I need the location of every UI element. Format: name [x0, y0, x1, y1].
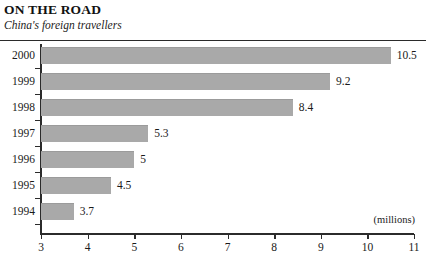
x-axis-tick	[181, 234, 182, 239]
bar-category-label: 1995	[0, 178, 35, 193]
bar-category-label: 1997	[0, 126, 35, 141]
x-axis-tick	[228, 234, 229, 239]
x-axis-tick	[88, 234, 89, 239]
x-axis-tick	[41, 234, 42, 239]
bar-value-label: 5	[140, 152, 146, 167]
bar-value-label: 8.4	[299, 100, 313, 115]
bar-category-label: 1994	[0, 204, 35, 219]
x-axis-tick	[367, 234, 368, 239]
bar-value-label: 5.3	[154, 126, 168, 141]
x-axis-tick	[134, 234, 135, 239]
bar	[41, 47, 391, 64]
bar	[41, 73, 330, 90]
y-axis-tick	[35, 120, 41, 121]
x-axis-tick-label: 8	[262, 240, 286, 255]
y-axis-tick	[35, 146, 41, 147]
y-axis-tick	[35, 198, 41, 199]
bar-category-label: 1998	[0, 100, 35, 115]
bar-row: 19988.4	[0, 97, 426, 123]
y-axis-tick	[35, 68, 41, 69]
bar-row: 19965	[0, 149, 426, 175]
x-axis-tick-label: 3	[29, 240, 53, 255]
bar-row: 19999.2	[0, 71, 426, 97]
unit-label: (millions)	[355, 213, 415, 226]
bar	[41, 177, 111, 194]
x-axis-tick-label: 11	[402, 240, 426, 255]
y-axis-tick	[35, 224, 41, 225]
x-axis-tick	[321, 234, 322, 239]
bar-value-label: 4.5	[117, 178, 131, 193]
bar-value-label: 9.2	[336, 74, 350, 89]
bar-value-label: 10.5	[397, 48, 417, 63]
x-axis-tick	[414, 234, 415, 239]
bar-value-label: 3.7	[80, 204, 94, 219]
x-axis-tick-label: 6	[169, 240, 193, 255]
bar-category-label: 2000	[0, 48, 35, 63]
y-axis-tick	[35, 172, 41, 173]
bar-row: 200010.5	[0, 45, 426, 71]
y-axis-tick	[35, 94, 41, 95]
bar	[41, 99, 293, 116]
bar	[41, 151, 134, 168]
x-axis-tick-label: 5	[122, 240, 146, 255]
x-axis-tick-label: 4	[76, 240, 100, 255]
x-axis-tick-label: 7	[216, 240, 240, 255]
bar-category-label: 1999	[0, 74, 35, 89]
bar-row: 19954.5	[0, 175, 426, 201]
bar-row: 19975.3	[0, 123, 426, 149]
x-axis-tick-label: 10	[355, 240, 379, 255]
x-axis-tick	[274, 234, 275, 239]
bar	[41, 125, 148, 142]
bar	[41, 203, 74, 220]
bar-chart: 200010.519999.219988.419975.31996519954.…	[0, 0, 426, 269]
bar-category-label: 1996	[0, 152, 35, 167]
x-axis-tick-label: 9	[309, 240, 333, 255]
